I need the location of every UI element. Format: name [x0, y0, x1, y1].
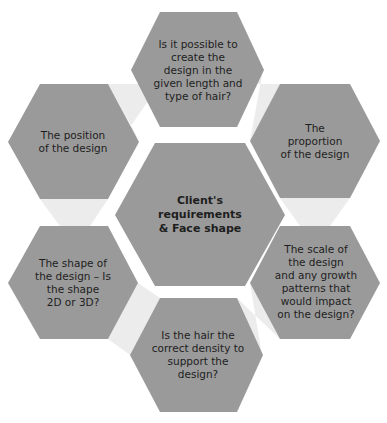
node-upper-right-label: The proportion of the design: [258, 92, 372, 190]
node-lower-left-label: The shape of the design – Is the shape 2…: [14, 234, 132, 332]
node-upper-left-label: The position of the design: [14, 92, 132, 192]
node-top-label: Is it possible to create the design in t…: [140, 20, 256, 120]
center-label: Client's requirements & Face shape: [125, 150, 275, 280]
connector-upperleft-lowerleft: [40, 199, 108, 226]
connector-upperright-lowerright: [280, 198, 350, 226]
node-bottom-label: Is the hair the correct density to suppo…: [136, 306, 260, 404]
